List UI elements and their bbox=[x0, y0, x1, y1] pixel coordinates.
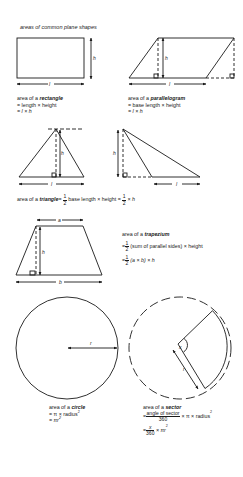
parallelogram-formula: area of a parallelogram = base length × … bbox=[128, 95, 185, 115]
trap-label-b: b bbox=[59, 279, 62, 285]
trap-label-h: h bbox=[42, 249, 45, 255]
trap-label-a: a bbox=[58, 217, 61, 223]
tri1-label-h: h bbox=[61, 150, 64, 156]
para-label-l: l bbox=[169, 81, 171, 87]
trapezium-formula: area of a trapezium =12 (sum of parallel… bbox=[122, 231, 203, 267]
tri1-label-l: l bbox=[51, 181, 53, 187]
rectangle-shape bbox=[17, 38, 91, 84]
rectangle-formula: area of a rectangle = length × height = … bbox=[17, 95, 63, 115]
fraction-angle: angle of sector360 bbox=[146, 411, 180, 423]
circle-shape bbox=[16, 297, 118, 399]
triangle-shape-1 bbox=[19, 129, 84, 184]
rect-label-h: h bbox=[93, 55, 96, 61]
parallelogram-shape bbox=[129, 38, 234, 84]
triangle-shape-2 bbox=[118, 129, 200, 184]
circle-formula: area of a circle = π × radius2 = πr2 bbox=[49, 404, 85, 424]
tri2-label-l: l bbox=[176, 181, 178, 187]
trapezium-name: trapezium bbox=[144, 231, 169, 237]
sector-label-x: x bbox=[178, 344, 182, 350]
triangle-name: triangle bbox=[39, 196, 58, 202]
rectangle-name: rectangle bbox=[39, 95, 63, 101]
circle-label-r: r bbox=[90, 340, 92, 346]
triangle-formula: area of a triangle= 12 base length × hei… bbox=[17, 194, 135, 206]
trapezium-shape bbox=[16, 220, 102, 282]
rect-label-l: l bbox=[49, 81, 51, 87]
sector-formula: area of a sector =angle of sector360 × π… bbox=[143, 404, 212, 437]
parallelogram-name: parallelogram bbox=[150, 95, 185, 101]
para-label-h: h bbox=[165, 55, 168, 61]
tri2-label-h: h bbox=[113, 150, 116, 156]
